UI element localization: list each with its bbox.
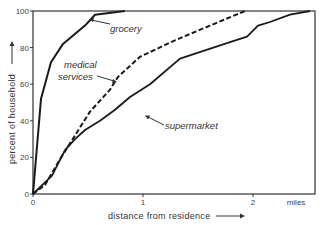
- x-axis-label: distance from residence: [108, 211, 210, 221]
- x-unit-label: miles: [287, 198, 306, 207]
- label-medical-line2: services: [58, 71, 93, 82]
- plot-frame: [33, 11, 315, 194]
- annotation-supermarket: supermarket: [145, 116, 218, 132]
- label-supermarket: supermarket: [165, 120, 218, 131]
- y-tick-0: 0: [25, 190, 30, 199]
- label-medical-line1: medical: [64, 59, 98, 70]
- x-tick-2: 2: [251, 198, 256, 207]
- annotation-grocery: grocery: [89, 18, 143, 34]
- y-tick-labels: 0 20 40 60 80 100: [16, 7, 30, 199]
- x-axis-arrow-icon: [216, 214, 245, 219]
- label-grocery: grocery: [110, 23, 143, 34]
- y-tick-20: 20: [20, 153, 29, 162]
- y-axis-label-group: percent of household: [7, 41, 17, 164]
- y-tick-60: 60: [20, 80, 29, 89]
- y-tick-40: 40: [20, 117, 29, 126]
- series-medical-services: [33, 11, 245, 194]
- series-supermarket: [33, 11, 310, 194]
- y-axis-label: percent of household: [7, 74, 17, 164]
- series-grocery: [33, 11, 125, 194]
- x-tick-1: 1: [141, 198, 146, 207]
- y-tick-100: 100: [16, 7, 30, 16]
- annotation-medical-services: medical services: [58, 59, 117, 84]
- y-axis-arrow-icon: [10, 41, 15, 46]
- x-tick-0: 0: [31, 198, 36, 207]
- y-tick-80: 80: [20, 44, 29, 53]
- chart: 0 20 40 60 80 100 0 1 2 miles distance f…: [0, 0, 324, 225]
- x-tick-labels: 0 1 2: [31, 198, 256, 207]
